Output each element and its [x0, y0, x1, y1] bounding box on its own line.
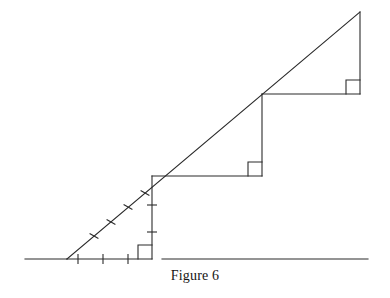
diagram-layer: [25, 12, 368, 264]
geometry-diagram: [0, 0, 390, 298]
right-angle-square-1: [138, 245, 152, 259]
figure-container: Figure 6: [0, 0, 390, 298]
right-angle-square-2: [248, 162, 262, 176]
right-angle-square-3: [346, 80, 360, 94]
figure-caption: Figure 6: [0, 268, 390, 284]
